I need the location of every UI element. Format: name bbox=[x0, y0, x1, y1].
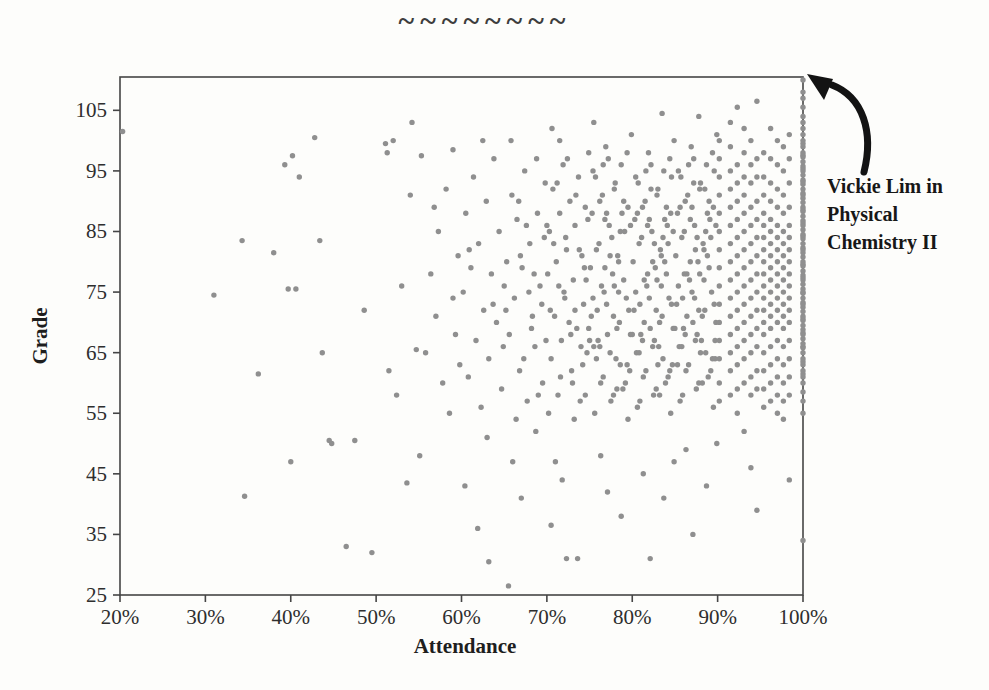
data-point bbox=[603, 144, 608, 149]
data-point bbox=[562, 295, 567, 300]
data-point bbox=[800, 177, 805, 182]
data-point bbox=[506, 583, 511, 588]
data-point bbox=[761, 211, 766, 216]
data-point bbox=[781, 192, 786, 197]
annotation-arrow bbox=[807, 74, 868, 172]
data-point bbox=[630, 332, 635, 337]
data-point bbox=[754, 253, 759, 258]
data-point bbox=[781, 380, 786, 385]
data-point bbox=[775, 271, 780, 276]
data-point bbox=[647, 217, 652, 222]
data-point bbox=[703, 350, 708, 355]
data-point bbox=[661, 495, 666, 500]
data-point bbox=[682, 271, 687, 276]
data-point bbox=[741, 338, 746, 343]
data-point bbox=[628, 223, 633, 228]
data-point bbox=[761, 192, 766, 197]
data-point bbox=[728, 259, 733, 264]
data-point bbox=[645, 271, 650, 276]
data-point bbox=[800, 411, 805, 416]
data-point bbox=[592, 411, 597, 416]
data-point bbox=[768, 344, 773, 349]
data-point bbox=[775, 186, 780, 191]
data-point bbox=[667, 156, 672, 161]
data-point bbox=[781, 168, 786, 173]
data-point bbox=[665, 241, 670, 246]
data-point bbox=[657, 320, 662, 325]
data-point bbox=[507, 332, 512, 337]
data-point bbox=[577, 247, 582, 252]
data-point bbox=[542, 235, 547, 240]
data-point bbox=[536, 392, 541, 397]
data-point bbox=[754, 289, 759, 294]
data-point bbox=[545, 271, 550, 276]
data-point bbox=[652, 241, 657, 246]
data-point bbox=[674, 302, 679, 307]
data-point bbox=[735, 199, 740, 204]
data-point bbox=[467, 247, 472, 252]
data-point bbox=[800, 120, 805, 125]
data-point bbox=[728, 186, 733, 191]
data-point bbox=[526, 289, 531, 294]
data-point bbox=[671, 459, 676, 464]
data-point bbox=[564, 247, 569, 252]
data-point bbox=[624, 295, 629, 300]
data-point bbox=[754, 326, 759, 331]
annotation-arrow-shaft bbox=[832, 85, 868, 172]
data-point bbox=[705, 211, 710, 216]
data-point bbox=[754, 156, 759, 161]
data-point bbox=[619, 162, 624, 167]
data-point bbox=[559, 338, 564, 343]
data-point bbox=[714, 441, 719, 446]
data-point bbox=[787, 374, 792, 379]
data-point bbox=[650, 344, 655, 349]
data-point bbox=[646, 150, 651, 155]
data-point bbox=[610, 271, 615, 276]
data-point bbox=[629, 132, 634, 137]
y-tick-label: 35 bbox=[86, 522, 107, 546]
x-tick-label: 60% bbox=[442, 605, 481, 629]
data-point bbox=[614, 326, 619, 331]
data-point bbox=[693, 247, 698, 252]
data-point bbox=[635, 211, 640, 216]
data-point bbox=[696, 114, 701, 119]
data-point bbox=[748, 374, 753, 379]
data-point bbox=[677, 205, 682, 210]
data-point bbox=[800, 350, 805, 355]
data-point bbox=[409, 120, 414, 125]
data-point bbox=[565, 156, 570, 161]
data-point bbox=[554, 259, 559, 264]
data-point bbox=[475, 526, 480, 531]
data-point bbox=[735, 180, 740, 185]
data-point bbox=[597, 199, 602, 204]
data-point bbox=[683, 447, 688, 452]
data-point bbox=[627, 368, 632, 373]
data-point bbox=[609, 235, 614, 240]
data-point bbox=[618, 229, 623, 234]
scatter-plot: 20%30%40%50%60%70%80%90%100%253545556575… bbox=[0, 0, 989, 690]
data-point bbox=[728, 277, 733, 282]
data-point bbox=[712, 302, 717, 307]
data-point bbox=[595, 338, 600, 343]
data-point bbox=[447, 411, 452, 416]
data-point bbox=[490, 302, 495, 307]
data-point bbox=[787, 156, 792, 161]
data-point bbox=[522, 168, 527, 173]
data-point bbox=[781, 314, 786, 319]
data-point bbox=[282, 162, 287, 167]
data-point bbox=[675, 362, 680, 367]
data-point bbox=[512, 295, 517, 300]
data-point bbox=[546, 411, 551, 416]
data-point bbox=[548, 356, 553, 361]
data-point bbox=[741, 283, 746, 288]
data-point bbox=[517, 368, 522, 373]
data-point bbox=[800, 286, 805, 291]
data-point bbox=[707, 217, 712, 222]
data-point bbox=[696, 308, 701, 313]
data-point bbox=[649, 229, 654, 234]
data-point bbox=[661, 168, 666, 173]
data-point bbox=[657, 392, 662, 397]
data-point bbox=[619, 514, 624, 519]
data-point bbox=[648, 326, 653, 331]
data-point bbox=[669, 174, 674, 179]
